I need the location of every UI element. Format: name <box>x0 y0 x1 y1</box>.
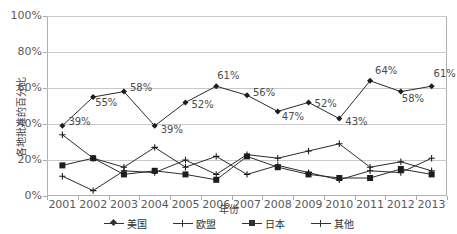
data-label: 39% <box>161 125 183 135</box>
y-tick-mark <box>43 16 47 17</box>
x-tick-mark <box>416 196 417 200</box>
data-label: 64% <box>375 66 397 76</box>
gridline <box>47 16 447 17</box>
legend-item-日本[interactable]: 日本 <box>242 216 285 231</box>
diamond-marker-icon <box>104 218 124 228</box>
x-tick-mark <box>232 196 233 200</box>
data-label: 58% <box>130 83 152 93</box>
y-tick-label: 40% <box>0 118 42 129</box>
data-label: 58% <box>402 94 424 104</box>
x-tick-mark <box>109 196 110 200</box>
chart-legend: 美国欧盟日本其他 <box>0 215 457 231</box>
legend-item-label: 日本 <box>265 216 285 231</box>
x-tick-mark <box>385 196 386 200</box>
x-tick-mark <box>170 196 171 200</box>
data-label: 61% <box>434 69 456 79</box>
x-tick-mark <box>139 196 140 200</box>
y-tick-label: 100% <box>0 10 42 21</box>
data-label: 56% <box>253 88 275 98</box>
data-label: 52% <box>191 100 213 110</box>
legend-item-label: 其他 <box>334 216 354 231</box>
x-tick-mark <box>201 196 202 200</box>
x-tick-mark <box>355 196 356 200</box>
y-tick-label: 20% <box>0 154 42 165</box>
gridline <box>47 52 447 53</box>
legend-item-美国[interactable]: 美国 <box>104 216 147 231</box>
gridline <box>47 124 447 125</box>
y-tick-label: 60% <box>0 82 42 93</box>
x-tick-mark <box>447 196 448 200</box>
x-tick-mark <box>47 196 48 200</box>
square-marker-icon <box>242 218 262 228</box>
y-tick-mark <box>43 124 47 125</box>
data-label: 43% <box>345 117 367 127</box>
y-tick-label: 0% <box>0 190 42 201</box>
data-label: 52% <box>315 99 337 109</box>
y-tick-mark <box>43 88 47 89</box>
y-tick-label: 80% <box>0 46 42 57</box>
legend-item-label: 美国 <box>127 216 147 231</box>
x-tick-mark <box>78 196 79 200</box>
cross-marker-icon <box>311 218 331 228</box>
x-axis-title: 年份 <box>0 201 457 216</box>
data-label: 55% <box>95 98 117 108</box>
legend-item-欧盟[interactable]: 欧盟 <box>173 216 216 231</box>
cross-marker-icon <box>173 218 193 228</box>
data-label: 61% <box>217 71 239 81</box>
legend-item-label: 欧盟 <box>196 216 216 231</box>
x-tick-mark <box>262 196 263 200</box>
line-chart: 各地批准的百分比 0%20%40%60%80%100% 200120022003… <box>0 0 457 234</box>
legend-item-其他[interactable]: 其他 <box>311 216 354 231</box>
x-tick-mark <box>293 196 294 200</box>
x-tick-mark <box>324 196 325 200</box>
data-label: 39% <box>68 117 90 127</box>
data-label: 47% <box>282 112 304 122</box>
gridline <box>47 88 447 89</box>
y-tick-mark <box>43 160 47 161</box>
y-tick-mark <box>43 52 47 53</box>
gridline <box>47 160 447 161</box>
